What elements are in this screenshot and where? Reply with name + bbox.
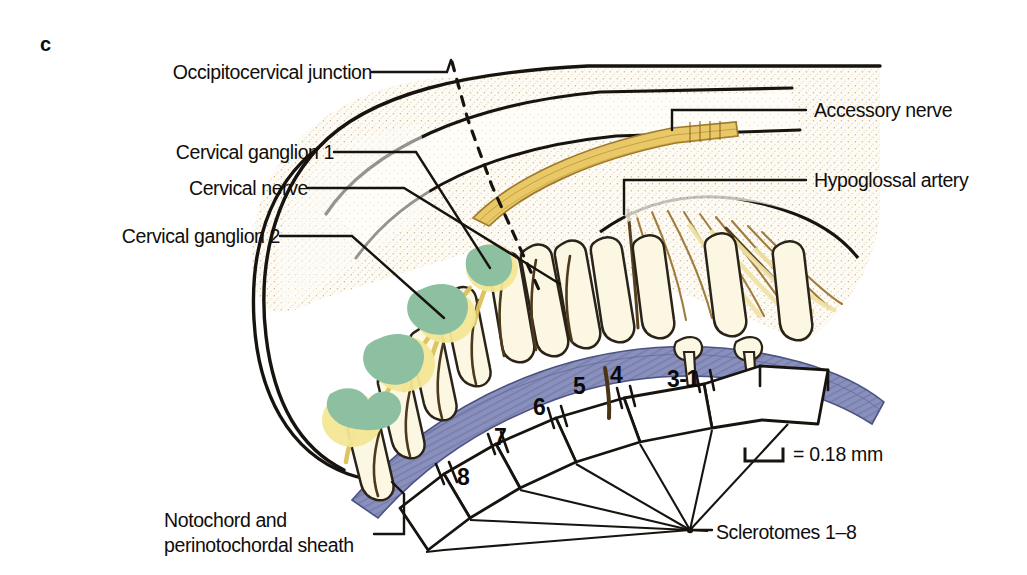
label-occipitocervical-junction: Occipitocervical junction — [135, 60, 372, 85]
anatomical-illustration — [0, 0, 1027, 575]
label-sclerotomes: Sclerotomes 1–8 — [716, 520, 856, 545]
label-accessory-nerve: Accessory nerve — [814, 98, 952, 123]
panel-letter: c — [40, 33, 51, 56]
figure-panel-c: c Occipitocervical junction Cervical gan… — [0, 0, 1027, 575]
label-cervical-nerve: Cervical nerve — [71, 176, 308, 201]
leader-occipitocervical-junction — [372, 60, 451, 72]
label-notochord-line1: Notochord and — [164, 508, 287, 533]
label-cervical-ganglion-2: Cervical ganglion 2 — [43, 224, 280, 249]
label-cervical-ganglion-1: Cervical ganglion 1 — [97, 140, 334, 165]
sclerotome-number-7: 7 — [494, 424, 506, 451]
label-hypoglossal-artery: Hypoglossal artery — [814, 168, 968, 193]
sclerotome-number-8: 8 — [457, 464, 469, 491]
scale-bar-label: = 0.18 mm — [793, 443, 883, 466]
sclerotome-number-5: 5 — [573, 373, 585, 400]
sclerotome-number-3-1: 3-1 — [667, 366, 699, 393]
sclerotome-number-4: 4 — [610, 362, 622, 389]
sclerotome-number-6: 6 — [533, 394, 545, 421]
label-notochord-line2: perinotochordal sheath — [164, 533, 354, 558]
